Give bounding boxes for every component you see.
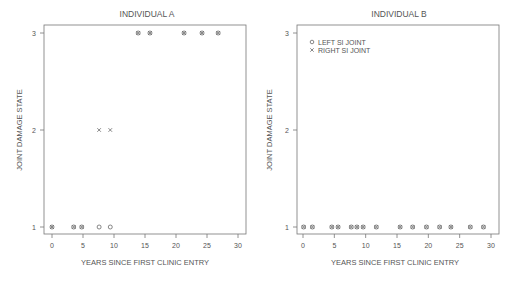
x-tick-label: 30 [234,242,242,249]
legend-x-icon [310,48,313,51]
x-tick-label: 5 [81,242,85,249]
x-marker-icon [355,225,359,229]
y-tick-label: 3 [285,30,289,37]
figure: INDIVIDUAL A 051015202530123 YEARS SINCE… [0,0,522,281]
x-marker-icon [148,31,152,35]
x-tick-label: 15 [393,242,401,249]
panel-b-axes: 051015202530123 [285,30,495,250]
x-marker-icon [216,31,220,35]
x-tick-label: 5 [332,242,336,249]
y-tick-label: 2 [285,127,289,134]
legend-right-label: RIGHT SI JOINT [318,47,371,54]
panel-b-plot-frame [297,25,499,234]
panel-b-title: INDIVIDUAL B [371,9,427,19]
circle-marker-icon [108,225,112,229]
x-marker-icon [411,225,415,229]
x-marker-icon [469,225,473,229]
x-marker-icon [311,225,315,229]
x-marker-icon [136,31,140,35]
x-marker-icon [108,128,112,132]
x-marker-icon [72,225,76,229]
x-marker-icon [425,225,429,229]
panel-a-title: INDIVIDUAL A [120,9,175,19]
legend-circle-icon [310,40,314,44]
panel-b-points [302,225,486,229]
x-tick-label: 15 [141,242,149,249]
panel-individual-a: INDIVIDUAL A 051015202530123 YEARS SINCE… [15,9,246,267]
panel-b-ylabel: JOINT DAMAGE STATE [265,89,274,170]
x-tick-label: 20 [172,242,180,249]
x-marker-icon [449,225,453,229]
panel-individual-b: INDIVIDUAL B 051015202530123 LEFT SI JOI… [265,9,499,267]
x-marker-icon [482,225,486,229]
panel-a-points [50,31,220,229]
panel-a-ylabel: JOINT DAMAGE STATE [15,89,24,170]
x-tick-label: 25 [456,242,464,249]
x-marker-icon [182,31,186,35]
y-tick-label: 3 [32,30,36,37]
y-tick-label: 1 [285,224,289,231]
x-tick-label: 30 [487,242,495,249]
x-tick-label: 25 [203,242,211,249]
x-marker-icon [97,128,101,132]
x-marker-icon [50,225,54,229]
y-tick-label: 1 [32,224,36,231]
x-marker-icon [336,225,340,229]
x-marker-icon [330,225,334,229]
x-tick-label: 10 [110,242,118,249]
x-marker-icon [349,225,353,229]
x-tick-label: 0 [301,242,305,249]
x-tick-label: 10 [362,242,370,249]
panel-a-plot-frame [44,25,246,234]
y-tick-label: 2 [32,127,36,134]
legend-left-label: LEFT SI JOINT [318,39,366,46]
panel-b-legend: LEFT SI JOINT RIGHT SI JOINT [310,39,371,54]
x-marker-icon [398,225,402,229]
panel-b-xlabel: YEARS SINCE FIRST CLINIC ENTRY [331,258,459,267]
x-marker-icon [302,225,306,229]
x-marker-icon [361,225,365,229]
x-marker-icon [438,225,442,229]
x-marker-icon [80,225,84,229]
panel-a-xlabel: YEARS SINCE FIRST CLINIC ENTRY [81,258,209,267]
x-tick-label: 0 [50,242,54,249]
circle-marker-icon [97,225,101,229]
x-marker-icon [375,225,379,229]
x-tick-label: 20 [424,242,432,249]
x-marker-icon [200,31,204,35]
panel-a-axes: 051015202530123 [32,30,242,250]
